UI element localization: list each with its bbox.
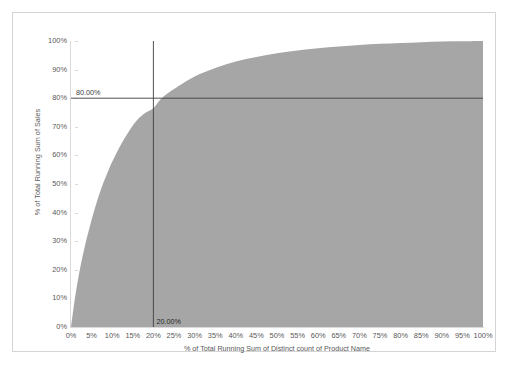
y-axis-tick-label: 50% [25, 180, 67, 188]
area-series-fill [71, 41, 483, 327]
y-axis-tick-label: 0% [25, 323, 67, 331]
pareto-area-chart [71, 41, 483, 327]
y-axis-tick-label: 70% [25, 123, 67, 131]
reference-line-label-80: 80.00% [75, 88, 101, 97]
y-axis-tick-label: 80% [25, 94, 67, 102]
chart-frame: % of Total Running Sum of Sales 100%90%8… [12, 12, 496, 352]
y-axis-tick-label: 100% [25, 37, 67, 45]
plot-area [71, 41, 483, 327]
x-axis-line [70, 327, 484, 328]
y-axis-tick-labels: 100%90%80%70%60%50%40%30%20%10%0% [21, 13, 67, 353]
y-axis-tick-label: 20% [25, 266, 67, 274]
x-axis-title: % of Total Running Sum of Distinct count… [71, 344, 483, 354]
y-axis-tick-label: 10% [25, 294, 67, 302]
y-axis-tick-label: 90% [25, 66, 67, 74]
y-axis-tick-label: 30% [25, 237, 67, 245]
reference-line-label-20: 20.00% [155, 317, 181, 326]
x-axis-tick-labels: 0%5%10%15%20%25%30%35%40%45%50%55%60%65%… [71, 331, 483, 343]
y-axis-tick-label: 40% [25, 209, 67, 217]
y-axis-tick-label: 60% [25, 151, 67, 159]
x-axis-tick-label: 100% [468, 331, 498, 340]
